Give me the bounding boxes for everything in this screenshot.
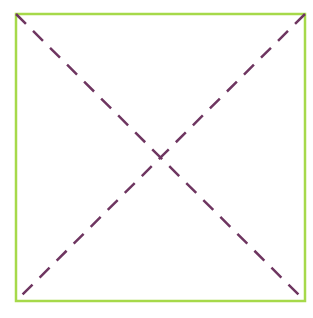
diagram-canvas [0, 0, 313, 318]
